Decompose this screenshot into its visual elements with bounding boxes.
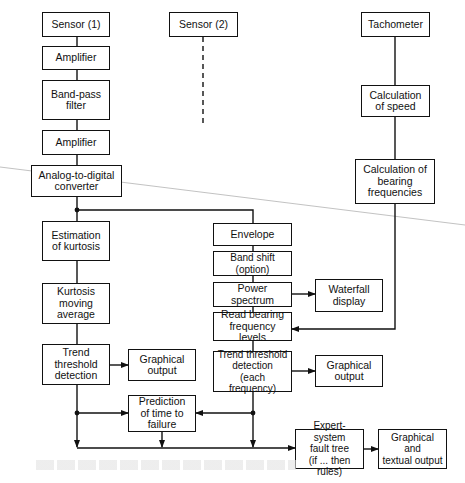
- envelope-node: Envelope: [213, 223, 292, 246]
- read-bearing-levels-node: Read bearing frequency levels: [213, 312, 292, 341]
- tachometer-node: Tachometer: [361, 12, 430, 37]
- band-pass-filter-node: Band-pass filter: [42, 80, 110, 120]
- flow-diagram: Sensor (1) Amplifier Band-pass filter Am…: [0, 0, 465, 483]
- estimation-kurtosis-node: Estimation of kurtosis: [42, 221, 110, 261]
- amplifier-1-node: Amplifier: [42, 46, 110, 70]
- band-shift-node: Band shift (option): [213, 251, 292, 276]
- expert-system-node: Expert-system fault tree (if ... then ru…: [295, 429, 364, 469]
- sensor-1-node: Sensor (1): [42, 12, 110, 37]
- prediction-time-to-failure-node: Prediction of time to failure: [128, 395, 196, 432]
- graphical-output-right-node: Graphical output: [315, 355, 383, 387]
- power-spectrum-node: Power spectrum: [213, 282, 292, 307]
- calc-speed-node: Calculation of speed: [361, 85, 430, 117]
- sensor-2-node: Sensor (2): [169, 12, 238, 37]
- calc-bearing-frequencies-node: Calculation of bearing frequencies: [355, 159, 435, 204]
- kurtosis-moving-average-node: Kurtosis moving average: [42, 283, 110, 324]
- amplifier-2-node: Amplifier: [42, 130, 110, 155]
- trend-threshold-left-node: Trend threshold detection: [42, 344, 110, 385]
- waterfall-display-node: Waterfall display: [315, 279, 383, 312]
- trend-threshold-right-node: Trend threshold detection (each frequenc…: [213, 351, 292, 392]
- graphical-output-left-node: Graphical output: [128, 349, 196, 381]
- adc-node: Analog-to-digital converter: [31, 165, 122, 197]
- illegible-caption: [36, 460, 296, 470]
- graphical-textual-output-node: Graphical and textual output: [378, 429, 447, 469]
